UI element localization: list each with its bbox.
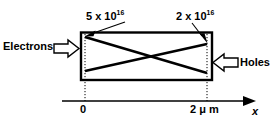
semiconductor-carrier-profile-figure: 5 x 1016 2 x 1016 Electrons Holes 0 2 μ … (0, 0, 277, 122)
concentration-left-mantissa: 5 x 10 (86, 10, 117, 22)
concentration-right-mantissa: 2 x 10 (176, 10, 207, 22)
x-axis-tick-label-zero: 0 (80, 104, 86, 115)
concentration-right-exponent: 16 (207, 9, 215, 16)
x-axis-tick-label-two-micron: 2 μ m (190, 104, 219, 115)
holes-label: Holes (240, 57, 270, 68)
x-axis (62, 96, 256, 106)
concentration-left-exponent: 16 (117, 9, 125, 16)
x-axis-label: x (252, 106, 258, 117)
electrons-block-arrow (54, 40, 79, 57)
figure-canvas (0, 0, 277, 122)
holes-block-arrow (213, 54, 238, 71)
concentration-label-left: 5 x 1016 (86, 10, 124, 22)
concentration-label-right: 2 x 1016 (176, 10, 214, 22)
electrons-label: Electrons (3, 41, 53, 52)
